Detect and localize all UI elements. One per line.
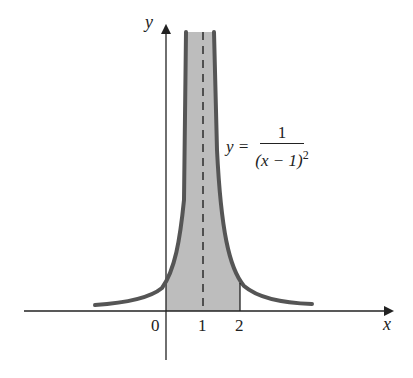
equation-denominator-base: (x − 1)	[255, 151, 302, 170]
tick-label-1: 1	[198, 316, 207, 336]
curve-left-branch	[95, 32, 186, 305]
tick-label-2: 2	[235, 316, 244, 336]
x-axis-label: x	[383, 314, 391, 335]
shaded-area	[166, 32, 240, 311]
equation-lhs: y =	[226, 137, 249, 157]
equation-numerator: 1	[260, 124, 305, 144]
y-axis-label: y	[145, 12, 153, 33]
equation-fraction: 1 (x − 1)2	[255, 124, 308, 171]
equation-denominator: (x − 1)2	[255, 144, 308, 171]
tick-label-0: 0	[151, 316, 160, 336]
equation-label: y = 1 (x − 1)2	[226, 124, 309, 171]
equation-exponent: 2	[303, 148, 309, 162]
plot-canvas	[0, 0, 413, 378]
